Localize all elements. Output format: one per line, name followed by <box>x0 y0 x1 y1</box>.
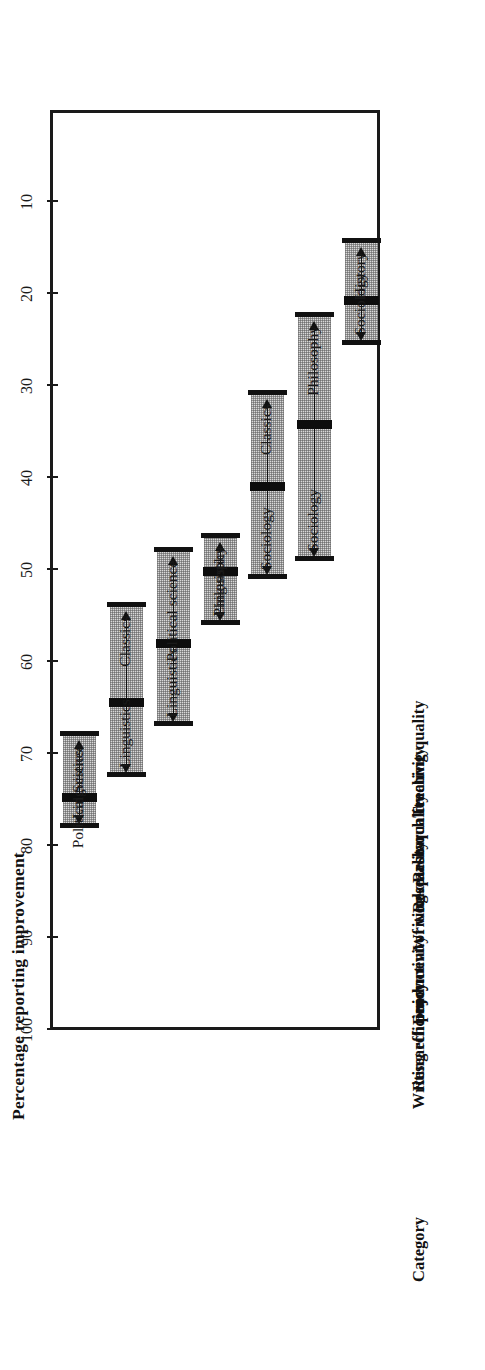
value-axis-tick-label: 20 <box>18 286 36 302</box>
range-row: LinguisticsClassics <box>103 110 150 1030</box>
range-low-label: Political Science <box>69 736 87 849</box>
value-axis-tick-label: 100 <box>18 1018 36 1042</box>
category-label: Teaching quality <box>409 701 429 818</box>
value-axis-title-text: Percentage reporting improvement <box>8 852 29 1120</box>
value-axis-tick-label: 60 <box>18 654 36 670</box>
value-marker <box>250 482 285 491</box>
range-low-label: Political science <box>163 552 181 662</box>
value-axis-tick-label: 90 <box>18 930 36 946</box>
range-low-label: Philosophy <box>210 538 228 617</box>
range-high-label: Sociology <box>257 507 275 579</box>
range-low-label: History <box>351 243 369 299</box>
range-high-label: Linguistics <box>116 699 134 777</box>
range-low-label: Philosophy <box>304 317 322 396</box>
value-axis-tick-label: 40 <box>18 470 36 486</box>
range-row: SociologyPhilosophy <box>291 110 338 1030</box>
range-row: LinguisticsPolitical science <box>150 110 197 1030</box>
range-row: SociologyClassics <box>244 110 291 1030</box>
value-axis-tick-label: 30 <box>18 378 36 394</box>
range-low-label: Classics <box>116 607 134 667</box>
range-low-label: Classics <box>257 395 275 455</box>
range-high-label: Sociology <box>304 489 322 561</box>
range-row: LinguisticsPhilosophy <box>197 110 244 1030</box>
value-axis-tick-label: 50 <box>18 562 36 578</box>
category-axis: Category Writing efficiencyResearch prod… <box>405 110 475 1030</box>
value-axis-tick-label: 70 <box>18 746 36 762</box>
category-axis-header: Category <box>409 1217 429 1282</box>
range-row: LinguisticsPolitical Science <box>56 110 103 1030</box>
value-axis-tick-label: 80 <box>18 838 36 854</box>
figure-canvas: Percentage reporting improvement 1020304… <box>0 0 485 1370</box>
range-row: SociologyHistory <box>338 110 385 1030</box>
value-axis-tick-label: 10 <box>18 194 36 210</box>
value-marker <box>297 420 332 429</box>
